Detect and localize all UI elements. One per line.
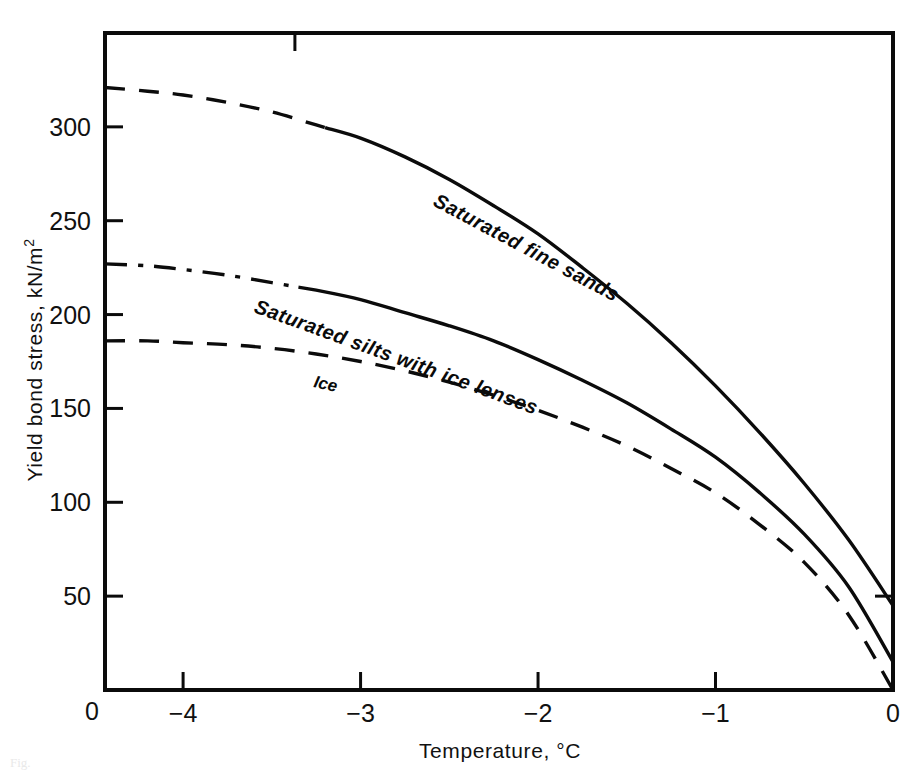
y-tick-label-100: 100 (49, 488, 91, 516)
y-tick-label-200: 200 (49, 301, 91, 329)
y-tick-label-300: 300 (49, 113, 91, 141)
x-tick-label-0: 0 (886, 699, 900, 727)
x-axis-origin-label: 0 (85, 697, 99, 725)
series-saturated-fine-sands (105, 87, 893, 605)
y-axis-title-text: Yield bond stress, kN/m (23, 247, 46, 482)
series-path-0-dash-head (105, 87, 325, 127)
y-axis-title: Yield bond stress, kN/m2 (21, 238, 46, 481)
y-tick-label-250: 250 (49, 207, 91, 235)
plot-frame (105, 33, 893, 690)
x-tick-label-−1: −1 (701, 699, 730, 727)
curve-label-ice: Ice (312, 372, 339, 395)
x-axis-tick-labels: −4−3−2−10 (169, 699, 900, 727)
chart-canvas: 50100150200250300 −4−3−2−10 0 Saturated … (0, 0, 916, 773)
curve-labels-group: Saturated fine sands Saturated silts wit… (252, 189, 623, 418)
y-tick-label-150: 150 (49, 394, 91, 422)
y-axis-title-superscript: 2 (21, 238, 37, 246)
curve-label-saturated-fine-sands: Saturated fine sands (430, 189, 623, 305)
x-tick-label-−3: −3 (346, 699, 375, 727)
y-axis-tick-labels: 50100150200250300 (49, 113, 91, 610)
x-tick-label-−4: −4 (169, 699, 198, 727)
series-path-1-dash-head (105, 264, 298, 287)
x-axis-ticks (183, 672, 893, 690)
x-tick-label-−2: −2 (524, 699, 553, 727)
curve-label-saturated-silts-with-ice-lenses: Saturated silts with ice lenses (252, 295, 541, 418)
series-saturated-silts-with-ice-lenses (105, 264, 893, 662)
figure-container: 50100150200250300 −4−3−2−10 0 Saturated … (0, 0, 916, 773)
y-tick-label-50: 50 (63, 582, 91, 610)
y-axis-ticks (105, 127, 123, 596)
figure-caption-fragment: Fig. (10, 755, 900, 771)
